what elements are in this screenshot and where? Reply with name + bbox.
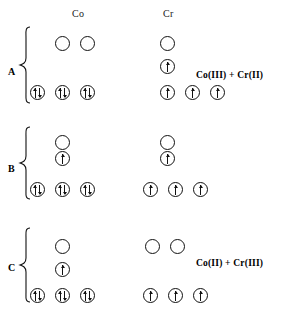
column-header-cr: Cr: [163, 8, 174, 19]
arrow-up-icon: [83, 290, 87, 301]
electron-single: [144, 183, 157, 196]
arrow-up-icon: [58, 290, 62, 301]
orbital-empty: [80, 36, 95, 51]
electron-single: [161, 152, 174, 165]
arrow-down-icon: [63, 184, 67, 195]
orbital-paired: [55, 288, 70, 303]
orbital-paired: [80, 288, 95, 303]
arrow-down-icon: [63, 87, 67, 98]
orbital-single: [55, 151, 70, 166]
arrow-down-icon: [88, 87, 92, 98]
orbital-empty: [55, 239, 70, 254]
orbital-single: [55, 262, 70, 277]
orbital-single: [168, 288, 183, 303]
arrow-up-icon: [191, 87, 195, 98]
orbital-empty: [160, 36, 175, 51]
orbital-single: [193, 288, 208, 303]
electron-single: [56, 263, 69, 276]
product-label-c: Co(II) + Cr(III): [196, 258, 263, 268]
product-label-a: Co(III) + Cr(II): [196, 70, 263, 80]
electron-single: [169, 289, 182, 302]
electron-single: [169, 183, 182, 196]
arrow-up-icon: [83, 184, 87, 195]
electron-single: [194, 183, 207, 196]
arrow-up-icon: [33, 290, 37, 301]
arrow-down-icon: [38, 290, 42, 301]
arrow-up-icon: [83, 87, 87, 98]
orbital-single: [143, 288, 158, 303]
orbital-paired: [30, 288, 45, 303]
electron-pair: [31, 183, 44, 196]
section-letter-b: B: [8, 163, 15, 174]
electron-single: [194, 289, 207, 302]
arrow-up-icon: [33, 87, 37, 98]
electron-pair: [31, 86, 44, 99]
electron-single: [161, 86, 174, 99]
arrow-down-icon: [38, 87, 42, 98]
orbital-empty: [145, 239, 160, 254]
electron-single: [144, 289, 157, 302]
orbital-paired: [55, 182, 70, 197]
arrow-down-icon: [38, 184, 42, 195]
orbital-empty: [55, 135, 70, 150]
orbital-single: [193, 182, 208, 197]
arrow-down-icon: [88, 184, 92, 195]
electron-pair: [56, 86, 69, 99]
orbital-paired: [30, 85, 45, 100]
arrow-up-icon: [166, 61, 170, 72]
electron-single: [211, 86, 224, 99]
orbital-single: [168, 182, 183, 197]
orbital-single: [160, 85, 175, 100]
arrow-down-icon: [63, 290, 67, 301]
arrow-up-icon: [199, 184, 203, 195]
electron-pair: [56, 289, 69, 302]
orbital-empty: [55, 36, 70, 51]
arrow-up-icon: [216, 87, 220, 98]
arrow-up-icon: [61, 264, 65, 275]
electron-single: [161, 60, 174, 73]
orbital-single: [160, 151, 175, 166]
electron-single: [56, 152, 69, 165]
electron-pair: [56, 183, 69, 196]
electron-pair: [31, 289, 44, 302]
section-letter-c: C: [8, 262, 15, 273]
orbital-empty: [160, 135, 175, 150]
arrow-up-icon: [166, 87, 170, 98]
section-letter-a: A: [8, 66, 15, 77]
arrow-up-icon: [149, 184, 153, 195]
electron-pair: [81, 86, 94, 99]
orbital-paired: [30, 182, 45, 197]
orbital-diagram-figure: Co Cr A: [0, 0, 290, 317]
electron-single: [186, 86, 199, 99]
arrow-up-icon: [174, 290, 178, 301]
arrow-up-icon: [61, 153, 65, 164]
arrow-down-icon: [88, 290, 92, 301]
orbital-single: [160, 59, 175, 74]
arrow-up-icon: [199, 290, 203, 301]
arrow-up-icon: [33, 184, 37, 195]
column-header-co: Co: [72, 8, 84, 19]
electron-pair: [81, 183, 94, 196]
orbital-empty: [170, 239, 185, 254]
orbital-single: [185, 85, 200, 100]
arrow-up-icon: [166, 153, 170, 164]
orbital-paired: [80, 85, 95, 100]
arrow-up-icon: [58, 87, 62, 98]
arrow-up-icon: [149, 290, 153, 301]
electron-pair: [81, 289, 94, 302]
arrow-up-icon: [58, 184, 62, 195]
orbital-paired: [80, 182, 95, 197]
orbital-single: [143, 182, 158, 197]
orbital-paired: [55, 85, 70, 100]
orbital-single: [210, 85, 225, 100]
arrow-up-icon: [174, 184, 178, 195]
